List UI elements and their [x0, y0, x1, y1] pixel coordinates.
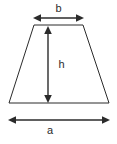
b-arrow-head-left	[33, 14, 41, 22]
height-dimension: h	[44, 26, 64, 103]
top-width-dimension: b	[33, 2, 84, 22]
a-arrow-head-left	[8, 116, 16, 124]
trapezoid-diagram-svg: b h a	[0, 0, 117, 144]
b-label: b	[55, 2, 61, 14]
bottom-width-dimension: a	[8, 116, 110, 136]
a-label: a	[47, 124, 54, 136]
h-label: h	[58, 58, 64, 70]
a-arrow-head-right	[102, 116, 110, 124]
h-arrow-head-top	[44, 26, 52, 34]
h-arrow-head-bottom	[44, 95, 52, 103]
trapezoid-diagram-canvas: b h a	[0, 0, 117, 144]
b-arrow-head-right	[76, 14, 84, 22]
